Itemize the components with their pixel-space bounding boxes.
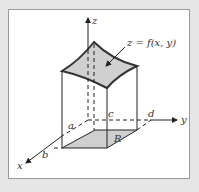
surface [62, 42, 137, 88]
z-axis-label: z [91, 15, 98, 26]
region-label: R [113, 133, 122, 144]
surface-label: z = f(x, y) [126, 37, 176, 48]
bound-c-label: c [108, 108, 114, 119]
region-r [62, 130, 137, 148]
bound-b-label: b [42, 149, 48, 160]
bound-d-label: d [148, 108, 154, 119]
x-axis-label: x [17, 160, 23, 171]
bound-a-label: a [68, 120, 74, 131]
solid-under-surface-diagram: z y x z = f(x, y) R a b c d [0, 0, 199, 192]
y-axis-label: y [180, 114, 187, 125]
